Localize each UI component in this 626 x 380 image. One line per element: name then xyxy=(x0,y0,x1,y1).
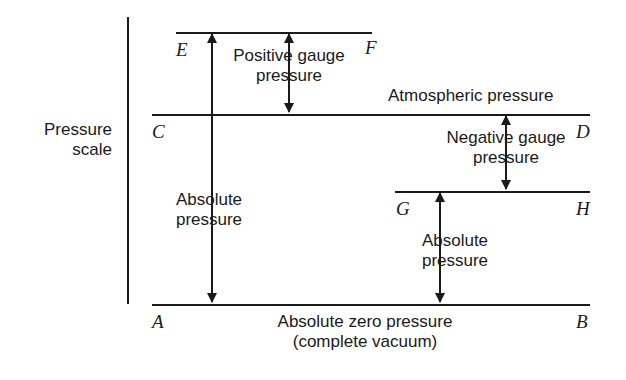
annotation-positive-gauge-line1: Positive gauge xyxy=(216,46,362,65)
annotation-absolute-pressure-right-line2: pressure xyxy=(409,251,501,270)
annotation-negative-gauge-line2: pressure xyxy=(432,148,580,167)
pressure-scale-diagram: Pressure scale E F C D G H A B Positive … xyxy=(0,0,626,380)
annotation-absolute-zero-line1: Absolute zero pressure xyxy=(245,312,485,331)
annotation-absolute-pressure-left-line1: Absolute xyxy=(163,190,255,209)
annotation-negative-gauge-line1: Negative gauge xyxy=(432,128,580,147)
annotation-positive-gauge-line2: pressure xyxy=(216,66,362,85)
annotation-absolute-pressure-right-line1: Absolute xyxy=(409,231,501,250)
annotation-absolute-zero-line2: (complete vacuum) xyxy=(245,332,485,351)
annotation-atmospheric-pressure: Atmospheric pressure xyxy=(388,86,553,105)
annotation-absolute-pressure-left-line2: pressure xyxy=(163,210,255,229)
